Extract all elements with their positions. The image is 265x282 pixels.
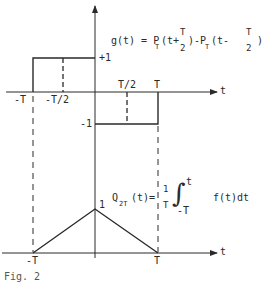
tick-neg-half-T: -T/2 (45, 95, 69, 105)
g-eq-frac1-num: T (180, 28, 185, 37)
tick-neg-T-bottom: -T (26, 256, 38, 266)
g-eq-mid1: (t+ (161, 36, 179, 46)
tick-T-bottom: T (154, 256, 160, 266)
tick-T-top: T (154, 80, 160, 90)
tick-neg-T-top: -T (14, 95, 26, 105)
g-eq-end: ) (257, 36, 263, 46)
g-eq-frac1-den: 2 (180, 44, 185, 53)
bottom-t-axis-label: t (220, 247, 226, 257)
g-eq-lhs: g(t) = P (111, 36, 159, 46)
q-eq-int-upper: t (186, 177, 192, 187)
peak-label: 1 (99, 200, 105, 210)
q-eq-int-lower: -T (177, 206, 189, 216)
g-eq-sub2: T (205, 44, 209, 51)
g-eq-frac2-num: T (246, 28, 251, 37)
top-t-axis-label: t (220, 86, 226, 96)
q-eq-frac-num: 1 (163, 185, 168, 194)
q-eq-lhs: Q (112, 193, 118, 203)
q-eq-arg: (t)= (131, 193, 155, 203)
q-eq-sub: 2T (119, 201, 127, 208)
minus-one-label: -1 (80, 119, 92, 129)
q-eq-integrand: f(t)dt (213, 193, 249, 203)
g-eq-mid2: )-P (188, 36, 206, 46)
q-eq-frac-den: T (163, 201, 168, 210)
figure-caption: Fig. 2 (4, 272, 40, 282)
tick-half-T: T/2 (118, 80, 136, 90)
g-eq-sub1: T (155, 44, 159, 51)
g-eq-frac2-den: 2 (246, 44, 251, 53)
integral-sign: ∫ (172, 180, 186, 206)
g-eq-mid3: (t- (211, 36, 229, 46)
plus-one-label: +1 (99, 53, 111, 63)
g-positive-pulse (33, 58, 95, 92)
